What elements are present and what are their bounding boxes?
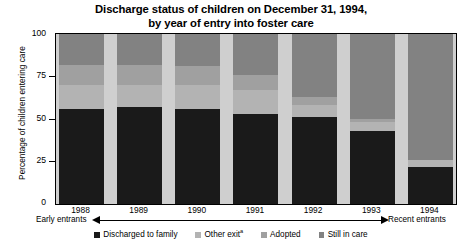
bar-segment[interactable]	[175, 66, 220, 85]
x-tick-label-1989: 1989	[116, 205, 161, 215]
legend-label: Adopted	[270, 230, 301, 240]
bar-segment[interactable]	[117, 65, 162, 85]
legend-swatch-icon	[94, 232, 100, 238]
bar-segment[interactable]	[233, 90, 278, 114]
bar-1989[interactable]	[117, 34, 162, 204]
bar-segment[interactable]	[408, 34, 453, 160]
bar-1990[interactable]	[175, 34, 220, 204]
y-tick-label-75: 75	[36, 71, 46, 80]
x-tick-label-1992: 1992	[291, 205, 336, 215]
bar-segment[interactable]	[59, 65, 104, 85]
chart-title: Discharge status of children on December…	[0, 3, 462, 30]
bar-segment[interactable]	[350, 34, 395, 119]
bar-1991[interactable]	[233, 34, 278, 204]
legend-footnote-marker: a	[240, 228, 243, 234]
bar-segment[interactable]	[175, 85, 220, 109]
y-tick-25: 25	[10, 161, 56, 162]
x-tick-label-1993: 1993	[349, 205, 394, 215]
bar-segment[interactable]	[59, 34, 104, 65]
legend-item-0[interactable]: Discharged to family	[94, 230, 177, 240]
x-tick-label-1991: 1991	[232, 205, 277, 215]
y-tick-label-0: 0	[41, 198, 46, 207]
chart-title-line1: Discharge status of children on December…	[95, 3, 367, 15]
bar-1992[interactable]	[292, 34, 337, 204]
y-tick-100: 100	[10, 34, 56, 35]
bar-segment[interactable]	[292, 34, 337, 97]
bar-segment[interactable]	[233, 34, 278, 75]
legend-swatch-icon	[195, 232, 201, 238]
x-tick-label-1990: 1990	[174, 205, 219, 215]
bar-segment[interactable]	[292, 105, 337, 117]
bar-1988[interactable]	[59, 34, 104, 204]
bar-segment[interactable]	[233, 75, 278, 90]
bar-segment[interactable]	[117, 34, 162, 65]
legend-label: Other exita	[204, 230, 243, 240]
bar-group	[56, 34, 456, 204]
bar-1993[interactable]	[350, 34, 395, 204]
x-tick-label-1988: 1988	[58, 205, 103, 215]
y-tick-50: 50	[10, 119, 56, 120]
bar-segment[interactable]	[59, 109, 104, 204]
y-tick-0: 0	[10, 203, 56, 204]
bar-segment[interactable]	[175, 109, 220, 204]
bar-segment[interactable]	[350, 131, 395, 204]
bar-segment[interactable]	[350, 122, 395, 131]
bar-segment[interactable]	[292, 97, 337, 106]
bar-segment[interactable]	[175, 34, 220, 66]
chart-container: Discharge status of children on December…	[0, 0, 462, 245]
y-tick-label-25: 25	[36, 156, 46, 165]
legend-item-1[interactable]: Other exita	[195, 230, 243, 240]
legend-label: Discharged to family	[103, 230, 177, 240]
bar-segment[interactable]	[408, 167, 453, 204]
chart-legend: Discharged to familyOther exitaAdoptedSt…	[0, 230, 462, 240]
bar-segment[interactable]	[233, 114, 278, 204]
legend-swatch-icon	[261, 232, 267, 238]
early-entrants-label: Early entrants	[36, 215, 87, 225]
x-axis-ticks: 1988198919901991199219931994	[55, 205, 455, 215]
bar-segment[interactable]	[292, 117, 337, 204]
y-tick-label-50: 50	[36, 114, 46, 123]
bar-1994[interactable]	[408, 34, 453, 204]
recent-entrants-label: Recent entrants	[388, 215, 446, 225]
entrant-axis-annotation: Early entrants Recent entrants	[0, 215, 462, 227]
y-tick-label-100: 100	[32, 29, 46, 38]
legend-item-3[interactable]: Still in care	[319, 230, 368, 240]
bar-segment[interactable]	[408, 160, 453, 167]
bar-segment[interactable]	[117, 85, 162, 107]
legend-swatch-icon	[319, 232, 325, 238]
y-tick-75: 75	[10, 76, 56, 77]
bar-segment[interactable]	[117, 107, 162, 204]
chart-title-line2: by year of entry into foster care	[0, 17, 462, 31]
plot-area	[55, 33, 457, 205]
x-tick-label-1994: 1994	[407, 205, 452, 215]
arrow-left-icon	[92, 216, 100, 224]
y-axis-label: Percentage of children entering care	[17, 23, 27, 203]
bar-segment[interactable]	[59, 85, 104, 109]
legend-label: Still in care	[328, 230, 368, 240]
arrow-line	[100, 220, 383, 221]
legend-item-2[interactable]: Adopted	[261, 230, 301, 240]
